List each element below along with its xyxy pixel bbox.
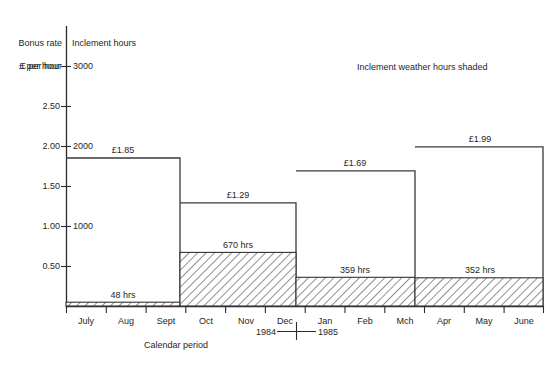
year-label-1985: 1985 [318, 327, 338, 337]
hatch-block-q2 [180, 252, 296, 306]
x-month-label-jan: Jan [305, 316, 345, 326]
right-axis-title: Inclement hours [72, 38, 136, 48]
y-tick-label-1-50: 1.50 [8, 181, 60, 191]
inclement-hours-label-q1: 48 hrs [83, 290, 163, 300]
bonus-rate-label-q2: £1.29 [198, 190, 278, 200]
inclement-hours-label-q4: 352 hrs [440, 265, 520, 275]
x-month-label-sept: Sept [146, 316, 186, 326]
x-month-label-july: July [66, 316, 106, 326]
hatch-block-q3 [296, 277, 415, 306]
x-month-label-nov: Nov [226, 316, 266, 326]
hatch-block-q4 [415, 278, 543, 306]
x-axis-title: Calendar period [96, 340, 256, 350]
legend-annotation: Inclement weather hours shaded [357, 62, 488, 72]
y-tick-label-2-50: 2.50 [8, 101, 60, 111]
y-tick-label-0-50: 0.50 [8, 261, 60, 271]
chart-canvas [0, 0, 557, 369]
x-month-label-dec: Dec [265, 316, 305, 326]
inclement-hours-label-q2: 670 hrs [198, 240, 278, 250]
hours-tick-label-3000: 3000 [73, 61, 93, 71]
x-month-label-feb: Feb [345, 316, 385, 326]
hours-tick-label-1000: 1000 [73, 221, 93, 231]
x-month-label-oct: Oct [186, 316, 226, 326]
x-month-label-mch: Mch [385, 316, 425, 326]
y-tick-label-top: £ per hour [8, 61, 60, 71]
y-tick-label-2-00: 2.00 [8, 141, 60, 151]
bonus-rate-label-q1: £1.85 [83, 145, 163, 155]
x-month-label-june: June [504, 316, 544, 326]
left-axis-title-line1: Bonus rate [0, 38, 62, 48]
x-month-label-may: May [464, 316, 504, 326]
x-month-label-aug: Aug [106, 316, 146, 326]
inclement-hours-label-q3: 359 hrs [315, 265, 395, 275]
y-tick-label-1-00: 1.00 [8, 221, 60, 231]
bonus-rate-label-q3: £1.69 [315, 158, 395, 168]
year-label-1984: 1984 [230, 327, 276, 337]
inclement-weather-bonus-chart: Bonus rate £ per hour Inclement hours In… [0, 0, 557, 369]
x-month-label-apr: Apr [424, 316, 464, 326]
bonus-rate-label-q4: £1.99 [440, 134, 520, 144]
hatch-block-q1 [66, 302, 180, 306]
